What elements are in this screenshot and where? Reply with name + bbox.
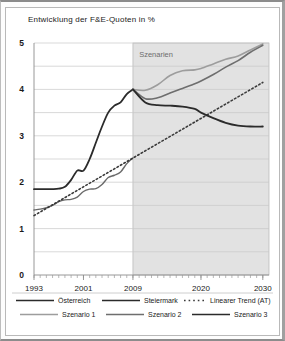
legend-label: Linearer Trend (AT) — [210, 297, 271, 305]
x-tick-label-2009: 2009 — [124, 284, 142, 293]
scenario-annotation-label: Szenarien — [139, 50, 173, 59]
figure-frame: Entwicklung der F&E-Quoten in %012345199… — [0, 0, 285, 341]
legend-label: Szenario 1 — [62, 311, 96, 318]
x-tick-label-1993: 1993 — [25, 284, 43, 293]
legend-label: Szenario 3 — [234, 311, 268, 318]
y-tick-label-1: 1 — [19, 224, 24, 234]
y-tick-label-4: 4 — [19, 84, 24, 94]
legend-entry-sterreich: Österreich — [16, 297, 90, 304]
y-tick-label-2: 2 — [19, 177, 24, 187]
legend-label: Steiermark — [144, 297, 178, 304]
chart-title: Entwicklung der F&E-Quoten in % — [28, 15, 155, 24]
y-tick-label-5: 5 — [19, 38, 24, 48]
legend-label: Österreich — [58, 297, 90, 304]
legend-entry-szenario-2: Szenario 2 — [106, 311, 182, 318]
legend-entry-steiermark: Steiermark — [102, 297, 178, 304]
x-tick-label-2020: 2020 — [192, 284, 210, 293]
legend-entry-linearer-trend-at: Linearer Trend (AT) — [184, 297, 271, 305]
fe-quoten-line-chart: Entwicklung der F&E-Quoten in %012345199… — [6, 8, 279, 335]
legend-label: Szenario 2 — [148, 311, 182, 318]
legend-entry-szenario-1: Szenario 1 — [20, 311, 96, 318]
x-tick-label-2030: 2030 — [254, 284, 272, 293]
legend-entry-szenario-3: Szenario 3 — [192, 311, 268, 318]
x-tick-label-2001: 2001 — [75, 284, 93, 293]
y-tick-label-3: 3 — [19, 131, 24, 141]
y-tick-label-0: 0 — [19, 270, 24, 280]
figure-inner-panel: Entwicklung der F&E-Quoten in %012345199… — [5, 7, 280, 336]
